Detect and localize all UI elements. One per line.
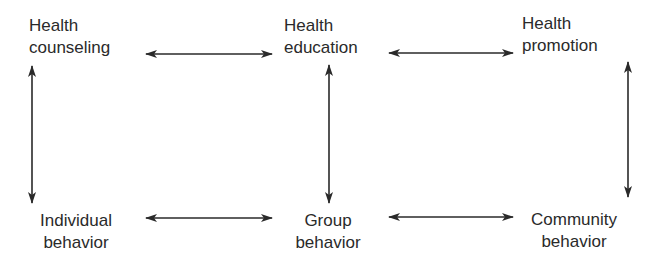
arrows-layer [0, 0, 660, 259]
